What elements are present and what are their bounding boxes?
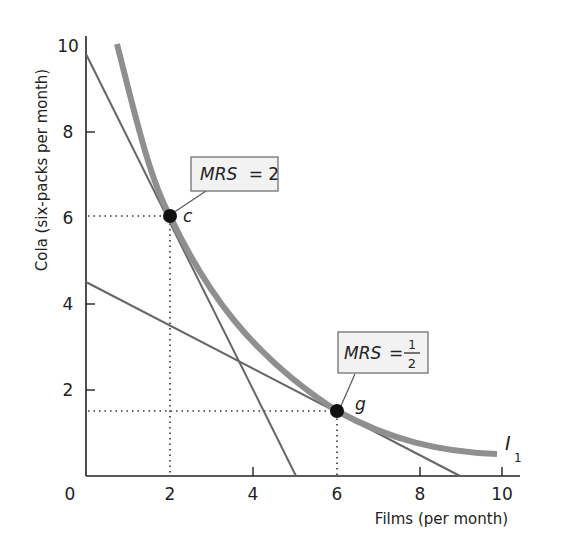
point-g-label: g bbox=[355, 394, 366, 414]
tangent-line-g bbox=[86, 282, 460, 476]
y-tick-10: 10 bbox=[57, 36, 79, 56]
mrs-g-denominator: 2 bbox=[408, 356, 416, 371]
tangent-line-c bbox=[86, 54, 296, 476]
x-tick-8: 8 bbox=[415, 484, 426, 504]
y-axis-title: Cola (six-packs per month) bbox=[33, 69, 51, 271]
mrs-c-callout: MRS = 2 bbox=[191, 157, 279, 191]
y-tick-4: 4 bbox=[63, 294, 74, 314]
point-g-marker bbox=[330, 404, 344, 418]
x-tick-0: 0 bbox=[65, 484, 76, 504]
x-tick-10: 10 bbox=[491, 484, 513, 504]
curve-label-i: I bbox=[505, 432, 511, 454]
guide-lines bbox=[88, 216, 337, 476]
mrs-indifference-chart: 2 4 6 8 10 0 2 4 6 8 10 Films (per month… bbox=[0, 0, 563, 553]
x-tick-2: 2 bbox=[165, 484, 176, 504]
mrs-g-callout: MRS = 1 2 bbox=[338, 332, 428, 373]
y-tick-6: 6 bbox=[63, 208, 74, 228]
mrs-g-numerator: 1 bbox=[408, 338, 416, 352]
y-tick-2: 2 bbox=[63, 380, 74, 400]
y-tick-8: 8 bbox=[63, 122, 74, 142]
svg-text:MRS = 2: MRS = 2 bbox=[200, 164, 279, 184]
mrs-g-prefix: MRS bbox=[344, 343, 381, 363]
y-ticks bbox=[86, 132, 95, 390]
x-axis-title: Films (per month) bbox=[375, 510, 508, 528]
callout-leader-g bbox=[340, 374, 355, 408]
indifference-curve-i1 bbox=[117, 44, 497, 454]
mrs-g-equals: = bbox=[389, 343, 403, 363]
x-tick-4: 4 bbox=[248, 484, 259, 504]
curve-label-sub: 1 bbox=[514, 451, 522, 465]
x-tick-6: 6 bbox=[332, 484, 343, 504]
mrs-c-prefix: MRS bbox=[200, 164, 237, 184]
mrs-c-value: = 2 bbox=[249, 164, 279, 184]
point-c-marker bbox=[163, 209, 177, 223]
point-c-label: c bbox=[183, 206, 193, 226]
x-ticks bbox=[253, 467, 502, 476]
